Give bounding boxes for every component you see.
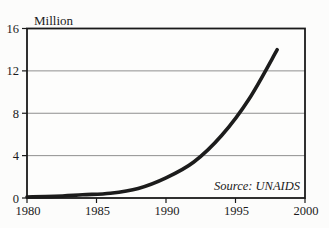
- y-axis-labels-group: 0481216: [7, 22, 20, 206]
- x-tick-label: 1980: [16, 204, 41, 218]
- x-tick-label: 1985: [85, 204, 110, 218]
- x-axis-labels-group: 19801985199019952000: [16, 204, 319, 218]
- x-tick-label: 1995: [224, 204, 249, 218]
- y-tick-label: 4: [13, 149, 20, 163]
- x-tick-label: 2000: [294, 204, 319, 218]
- x-tick-label: 1990: [155, 204, 180, 218]
- y-tick-label: 8: [13, 107, 19, 121]
- chart-canvas: 0481216 19801985199019952000 Million Sou…: [0, 0, 329, 228]
- source-attribution-label: Source: UNAIDS: [214, 179, 301, 193]
- y-tick-label: 12: [7, 64, 20, 78]
- y-tick-label: 16: [7, 22, 20, 36]
- y-axis-unit-label: Million: [34, 13, 74, 28]
- line-chart-figure: 0481216 19801985199019952000 Million Sou…: [0, 0, 329, 228]
